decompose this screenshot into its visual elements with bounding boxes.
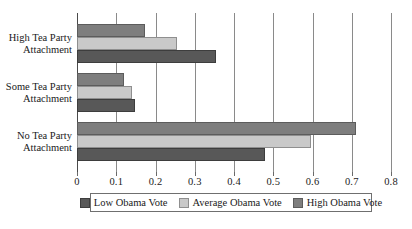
legend-label-average-obama-vote: Average Obama Vote — [193, 197, 282, 208]
legend-item-average-obama-vote: Average Obama Vote — [179, 197, 282, 208]
legend-label-low-obama-vote: Low Obama Vote — [94, 197, 168, 208]
legend-swatch-high-obama-vote — [293, 198, 303, 208]
chart-legend: Low Obama Vote Average Obama Vote High O… — [90, 193, 372, 212]
bar — [77, 135, 311, 148]
legend-item-low-obama-vote: Low Obama Vote — [80, 197, 168, 208]
x-tick-label-0.5: 0.5 — [253, 176, 293, 187]
legend-label-high-obama-vote: High Obama Vote — [307, 197, 382, 208]
x-tick-label-0.7: 0.7 — [332, 176, 372, 187]
x-tick-label-0.1: 0.1 — [96, 176, 136, 187]
x-tick-label-0: 0 — [57, 176, 97, 187]
category-label-0: High Tea PartyAttachment — [0, 32, 72, 55]
category-label-line: No Tea Party — [0, 130, 72, 142]
category-label-line: Some Tea Party — [0, 81, 72, 93]
bar-group-0 — [77, 24, 391, 63]
category-label-line: Attachment — [0, 93, 72, 105]
x-tick-label-0.3: 0.3 — [175, 176, 215, 187]
x-tick-label-0.8: 0.8 — [371, 176, 411, 187]
x-tick-label-0.2: 0.2 — [136, 176, 176, 187]
category-label-1: Some Tea PartyAttachment — [0, 81, 72, 104]
category-label-2: No Tea PartyAttachment — [0, 130, 72, 153]
category-label-line: Attachment — [0, 142, 72, 154]
bar — [77, 73, 124, 86]
bar — [77, 99, 135, 112]
legend-swatch-low-obama-vote — [80, 198, 90, 208]
gridline-0.8 — [391, 13, 392, 172]
plot-area — [77, 13, 391, 172]
bar — [77, 86, 132, 99]
category-label-line: Attachment — [0, 44, 72, 56]
legend-item-high-obama-vote: High Obama Vote — [293, 197, 382, 208]
bar — [77, 50, 216, 63]
bar — [77, 37, 177, 50]
x-tick-label-0.4: 0.4 — [214, 176, 254, 187]
bar — [77, 122, 356, 135]
bar-group-2 — [77, 122, 391, 161]
legend-swatch-average-obama-vote — [179, 198, 189, 208]
bar — [77, 24, 145, 37]
category-label-line: High Tea Party — [0, 32, 72, 44]
bar — [77, 148, 265, 161]
bar-chart: 00.10.20.30.40.50.60.70.8 High Tea Party… — [0, 0, 412, 229]
bar-group-1 — [77, 73, 391, 112]
x-tick-label-0.6: 0.6 — [293, 176, 333, 187]
